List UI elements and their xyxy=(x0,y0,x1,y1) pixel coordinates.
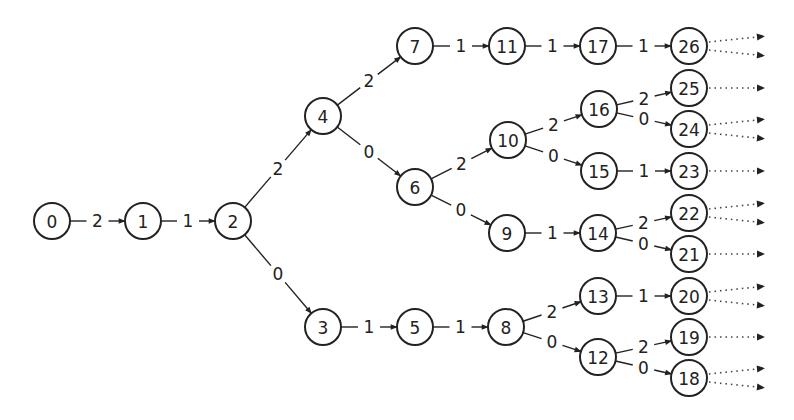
edge-3-5: 1 xyxy=(341,317,397,337)
edge-label: 1 xyxy=(639,161,650,181)
state-node-2: 2 xyxy=(215,203,251,239)
edge-label: 1 xyxy=(638,36,649,56)
edge-label: 1 xyxy=(364,317,375,337)
state-node-10: 10 xyxy=(490,122,526,158)
edge-17-26: 1 xyxy=(616,36,671,56)
edge-label: 1 xyxy=(638,286,649,306)
node-label: 7 xyxy=(410,37,421,57)
node-label: 21 xyxy=(678,245,700,265)
edge-13-20: 1 xyxy=(616,286,671,306)
continuation-20 xyxy=(709,284,765,309)
state-node-3: 3 xyxy=(305,309,341,345)
state-node-6: 6 xyxy=(397,169,433,205)
arrowhead-icon xyxy=(757,201,765,208)
state-node-19: 19 xyxy=(671,319,707,355)
node-label: 8 xyxy=(501,318,512,338)
node-label: 20 xyxy=(678,287,700,307)
state-node-17: 17 xyxy=(580,28,616,64)
continuation-25 xyxy=(709,85,765,92)
state-node-1: 1 xyxy=(125,203,161,239)
state-node-16: 16 xyxy=(581,91,617,127)
node-label: 25 xyxy=(678,79,700,99)
edge-label: 2 xyxy=(456,154,467,174)
edge-label: 2 xyxy=(638,213,649,233)
arrowhead-icon xyxy=(757,366,765,373)
state-node-4: 4 xyxy=(305,98,341,134)
state-node-24: 24 xyxy=(671,111,707,147)
edge-4-6: 0 xyxy=(337,127,401,176)
node-label: 18 xyxy=(678,369,700,389)
edge-label: 0 xyxy=(548,146,559,166)
edge-label: 1 xyxy=(547,36,558,56)
edge-10-16: 2 xyxy=(525,115,582,135)
node-label: 13 xyxy=(587,287,609,307)
state-node-9: 9 xyxy=(489,215,525,251)
edge-2-4: 2 xyxy=(245,130,312,208)
continuation-23 xyxy=(709,168,765,175)
edge-12-19: 2 xyxy=(616,337,672,357)
edge-label: 0 xyxy=(456,200,467,220)
state-node-22: 22 xyxy=(671,195,707,231)
state-node-18: 18 xyxy=(671,360,707,396)
arrowhead-icon xyxy=(757,117,765,124)
node-label: 26 xyxy=(678,37,700,57)
node-label: 5 xyxy=(410,318,421,338)
node-label: 23 xyxy=(678,162,700,182)
edges-layer: 21202011120202011201120120 xyxy=(70,36,671,378)
node-label: 9 xyxy=(502,224,513,244)
node-label: 19 xyxy=(678,328,700,348)
edge-7-11: 1 xyxy=(433,36,489,56)
edge-8-13: 2 xyxy=(523,302,581,322)
state-node-25: 25 xyxy=(671,70,707,106)
edge-9-14: 1 xyxy=(525,223,580,243)
continuation-24 xyxy=(709,117,765,142)
node-label: 6 xyxy=(410,178,421,198)
edge-label: 2 xyxy=(273,159,284,179)
edge-label: 0 xyxy=(273,264,284,284)
edge-label: 0 xyxy=(364,142,375,162)
node-label: 0 xyxy=(47,212,58,232)
edge-label: 1 xyxy=(456,36,467,56)
edge-label: 2 xyxy=(364,71,375,91)
edge-11-17: 1 xyxy=(525,36,580,56)
state-node-15: 15 xyxy=(581,153,617,189)
edge-label: 2 xyxy=(92,211,103,231)
edge-14-21: 0 xyxy=(616,234,672,254)
node-label: 16 xyxy=(588,100,610,120)
state-tree-diagram: 21202011120202011201120120 0123456789101… xyxy=(0,0,794,420)
node-label: 3 xyxy=(318,318,329,338)
edge-12-18: 0 xyxy=(616,358,672,378)
edge-4-7: 2 xyxy=(337,57,400,105)
edge-label: 1 xyxy=(183,211,194,231)
edge-label: 2 xyxy=(547,302,558,322)
edge-10-15: 0 xyxy=(525,146,582,166)
arrowhead-icon xyxy=(757,219,765,226)
state-node-11: 11 xyxy=(489,28,525,64)
arrowhead-icon xyxy=(757,384,765,391)
node-label: 4 xyxy=(318,107,329,127)
arrowhead-icon xyxy=(757,334,765,341)
node-label: 22 xyxy=(678,204,700,224)
state-node-8: 8 xyxy=(488,309,524,345)
state-node-7: 7 xyxy=(397,28,433,64)
continuation-arrows xyxy=(709,34,765,391)
edge-2-3: 0 xyxy=(245,235,312,314)
arrowhead-icon xyxy=(757,85,765,92)
edge-15-23: 1 xyxy=(617,161,671,181)
edge-label: 1 xyxy=(547,223,558,243)
continuation-22 xyxy=(709,201,765,226)
state-node-5: 5 xyxy=(397,309,433,345)
arrowhead-icon xyxy=(757,302,765,309)
node-label: 1 xyxy=(138,212,149,232)
edge-6-10: 2 xyxy=(431,148,492,179)
edge-label: 0 xyxy=(639,109,650,129)
edge-label: 2 xyxy=(638,337,649,357)
edge-1-2: 1 xyxy=(161,211,215,231)
continuation-18 xyxy=(709,366,765,391)
node-label: 24 xyxy=(678,120,700,140)
edge-0-1: 2 xyxy=(70,211,125,231)
arrowhead-icon xyxy=(757,168,765,175)
edge-label: 0 xyxy=(638,234,649,254)
edge-8-12: 0 xyxy=(523,332,581,352)
state-node-26: 26 xyxy=(671,28,707,64)
